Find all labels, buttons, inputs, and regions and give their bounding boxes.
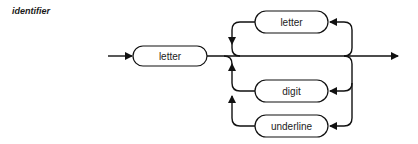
digit-label: digit: [282, 86, 301, 97]
syntax-diagram: letter letter digit underline: [0, 0, 418, 144]
letter-label-loop: letter: [280, 17, 303, 28]
underline-label: underline: [271, 121, 313, 132]
letter-label-entry: letter: [159, 51, 182, 62]
